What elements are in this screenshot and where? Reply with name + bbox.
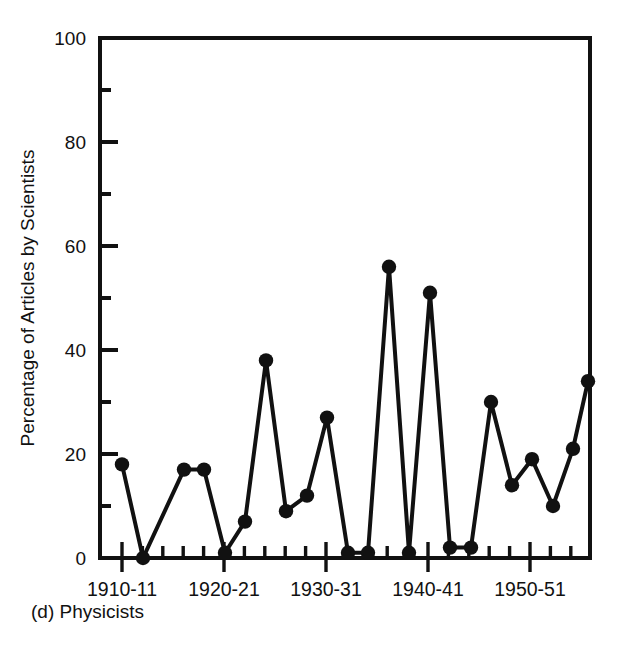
figure-panel: 020406080100 1910-111920-211930-311940-4… (0, 0, 619, 645)
x-tick-label: 1920-21 (188, 578, 260, 600)
data-point (259, 353, 273, 367)
data-point (423, 286, 437, 300)
y-tick-label: 100 (54, 28, 86, 49)
x-tick-label: 1930-31 (290, 578, 362, 600)
data-point (218, 546, 232, 560)
y-tick-label: 40 (65, 340, 86, 361)
data-point (320, 410, 334, 424)
figure-caption: (d) Physicists (31, 601, 144, 622)
y-tick-label: 20 (65, 444, 86, 465)
data-point (300, 488, 314, 502)
y-tick-label: 80 (65, 132, 86, 153)
data-point (505, 478, 519, 492)
data-point (382, 260, 396, 274)
data-point (443, 540, 457, 554)
x-tick-label: 1950-51 (494, 578, 566, 600)
data-point (238, 514, 252, 528)
y-tick-label: 60 (65, 236, 86, 257)
data-point (402, 546, 416, 560)
data-point (464, 540, 478, 554)
data-point (115, 457, 129, 471)
y-axis-title: Percentage of Articles by Scientists (17, 150, 38, 447)
x-tick-label: 1940-41 (392, 578, 464, 600)
data-point (197, 462, 211, 476)
y-tick-label: 0 (75, 548, 86, 569)
data-point (581, 374, 595, 388)
data-point (525, 452, 539, 466)
data-point (566, 442, 580, 456)
data-point (136, 551, 150, 565)
data-point (361, 546, 375, 560)
line-chart: 020406080100 1910-111920-211930-311940-4… (0, 0, 619, 645)
data-point (484, 395, 498, 409)
x-tick-label: 1910-11 (87, 578, 157, 600)
data-point (341, 546, 355, 560)
data-point (546, 499, 560, 513)
data-point (279, 504, 293, 518)
data-point (177, 462, 191, 476)
